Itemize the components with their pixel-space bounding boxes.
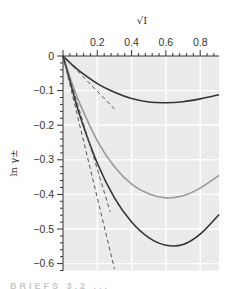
y-tick-label: −0.2 <box>33 119 54 131</box>
y-tick-label: −0.6 <box>33 257 54 269</box>
x-tick-label: 0.6 <box>159 36 174 48</box>
x-axis-title: √I <box>137 15 147 26</box>
y-tick-label: −0.1 <box>33 84 54 96</box>
y-axis-title: ln γ± <box>8 149 19 176</box>
y-tick-label: −0.4 <box>33 188 54 200</box>
y-tick-label: −0.5 <box>33 223 54 235</box>
x-tick-label: 0.8 <box>193 36 208 48</box>
y-tick-label: −0.3 <box>33 153 54 165</box>
figure-caption-fragment: BRIEFS 3.2 ... <box>10 281 110 289</box>
y-tick-label: 0 <box>48 50 54 62</box>
x-tick-label: 0.2 <box>90 36 105 48</box>
chart: 0.20.40.60.80−0.1−0.2−0.3−0.4−0.5−0.6 √I… <box>0 0 234 289</box>
x-tick-label: 0.4 <box>124 36 139 48</box>
